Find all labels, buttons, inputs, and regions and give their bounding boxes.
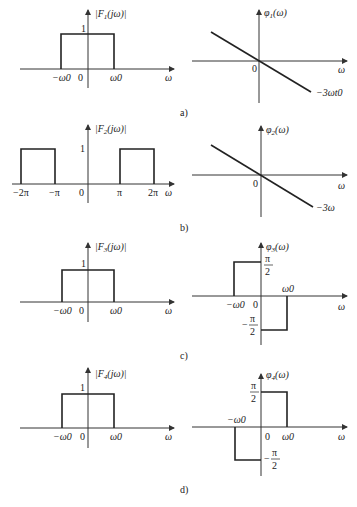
tick-neg-w0: −ω0 bbox=[52, 72, 71, 83]
height-label: 1 bbox=[80, 143, 85, 154]
neg-pi-half-label: − π 2 bbox=[242, 313, 258, 337]
caption-b: b) bbox=[180, 222, 188, 234]
origin-label: 0 bbox=[253, 299, 258, 310]
y-axis-label: φ4(ω) bbox=[266, 369, 289, 382]
height-label: 1 bbox=[81, 258, 86, 269]
height-label: 1 bbox=[81, 23, 86, 34]
figure-canvas: |F1(jω)| 1 −ω0 0 ω0 ω φ1(ω) 0 −3ωt0 ω a)… bbox=[0, 0, 357, 507]
svg-text:π: π bbox=[265, 253, 270, 264]
caption-a: a) bbox=[180, 107, 188, 119]
neg-pi-half-label: − π 2 bbox=[264, 447, 280, 471]
svg-text:−: − bbox=[242, 319, 248, 330]
y-axis-label: φ2(ω) bbox=[266, 124, 289, 137]
phase-negative-segment bbox=[261, 296, 287, 330]
magnitude-band-left bbox=[21, 149, 55, 184]
svg-text:2: 2 bbox=[250, 326, 255, 337]
tick-neg-w0: −ω0 bbox=[53, 431, 72, 442]
x-axis-label: ω bbox=[338, 180, 345, 191]
x-axis-label: ω bbox=[338, 301, 345, 312]
panel-c-magnitude: |F3(jω)| 1 −ω0 0 ω0 ω bbox=[20, 241, 174, 322]
tick-w0: ω0 bbox=[282, 283, 294, 294]
svg-text:−: − bbox=[264, 453, 270, 464]
y-axis-label: |F1(jω)| bbox=[95, 8, 127, 21]
panel-b-phase: φ2(ω) 0 −3ω ω bbox=[192, 124, 347, 217]
end-label: −3ω bbox=[316, 202, 335, 213]
tick-w0: ω0 bbox=[282, 431, 294, 442]
phase-line bbox=[211, 145, 313, 207]
origin-label: 0 bbox=[252, 63, 257, 74]
tick-zero: 0 bbox=[79, 187, 84, 198]
tick-zero: 0 bbox=[79, 305, 84, 316]
panel-d-magnitude: |F4(jω)| 1 −ω0 0 ω0 ω bbox=[20, 368, 174, 448]
tick-neg-w0: −ω0 bbox=[227, 414, 246, 425]
height-label: 1 bbox=[80, 382, 85, 393]
tick-neg-w0: −ω0 bbox=[226, 299, 245, 310]
panel-b-magnitude: |F2(jω)| 1 −2π −π 0 π 2π ω bbox=[12, 123, 174, 203]
magnitude-band-right bbox=[120, 149, 154, 184]
tick-zero: 0 bbox=[80, 431, 85, 442]
svg-text:π: π bbox=[272, 447, 277, 458]
x-axis-label: ω bbox=[338, 431, 345, 442]
tick-w0: ω0 bbox=[110, 72, 122, 83]
panel-a-magnitude: |F1(jω)| 1 −ω0 0 ω0 ω bbox=[20, 8, 174, 88]
tick-w0: ω0 bbox=[110, 305, 122, 316]
caption-c: c) bbox=[180, 350, 188, 362]
tick-2pi: 2π bbox=[148, 187, 158, 198]
tick-w0: ω0 bbox=[110, 431, 122, 442]
x-axis-label: ω bbox=[165, 187, 172, 198]
svg-text:2: 2 bbox=[272, 460, 277, 471]
svg-text:π: π bbox=[250, 313, 255, 324]
svg-text:π: π bbox=[251, 380, 256, 391]
svg-text:2: 2 bbox=[265, 266, 270, 277]
pos-pi-half-label: π 2 bbox=[264, 253, 273, 277]
phase-negative-segment bbox=[235, 427, 261, 460]
panel-d-phase: φ4(ω) π 2 − π 2 −ω0 0 ω0 ω bbox=[192, 369, 347, 476]
y-axis-label: |F3(jω)| bbox=[95, 241, 127, 254]
phase-positive-segment bbox=[234, 262, 261, 296]
y-axis-label: |F4(jω)| bbox=[95, 368, 127, 381]
tick-neg-2pi: −2π bbox=[13, 187, 29, 198]
y-axis-label: |F2(jω)| bbox=[95, 123, 127, 136]
tick-zero: 0 bbox=[78, 72, 83, 83]
panel-a-phase: φ1(ω) 0 −3ωt0 ω bbox=[192, 7, 347, 103]
y-axis-label: φ1(ω) bbox=[264, 7, 287, 20]
tick-neg-w0: −ω0 bbox=[53, 305, 72, 316]
panel-c-phase: φ3(ω) π 2 − π 2 −ω0 0 ω0 ω bbox=[192, 241, 347, 345]
end-label: −3ωt0 bbox=[316, 87, 343, 98]
origin-label: 0 bbox=[265, 431, 270, 442]
x-axis-label: ω bbox=[165, 305, 172, 316]
origin-label: 0 bbox=[253, 178, 258, 189]
x-axis-label: ω bbox=[165, 431, 172, 442]
x-axis-label: ω bbox=[338, 64, 345, 75]
caption-d: d) bbox=[180, 484, 188, 496]
svg-text:2: 2 bbox=[251, 393, 256, 404]
tick-pi: π bbox=[117, 187, 122, 198]
phase-line bbox=[211, 32, 311, 92]
tick-neg-pi: −π bbox=[49, 187, 60, 198]
x-axis-label: ω bbox=[165, 72, 172, 83]
phase-positive-segment bbox=[261, 392, 287, 427]
pos-pi-half-label: π 2 bbox=[250, 380, 259, 404]
